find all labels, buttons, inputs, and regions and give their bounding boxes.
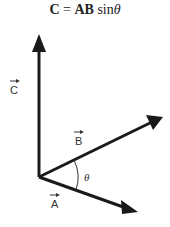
vector-diagram: C B A θ [0,0,170,227]
angle-arc [74,160,78,190]
svg-text:C: C [10,84,18,96]
svg-text:B: B [75,135,82,147]
vector-c-arrowhead-icon [32,34,46,52]
vector-a-arrowhead-icon [121,200,138,214]
vector-b-line [39,122,152,177]
svg-text:A: A [51,198,59,210]
label-b: B [74,130,84,147]
label-a: A [50,193,60,210]
label-c: C [10,79,20,96]
angle-theta-label: θ [84,171,90,183]
